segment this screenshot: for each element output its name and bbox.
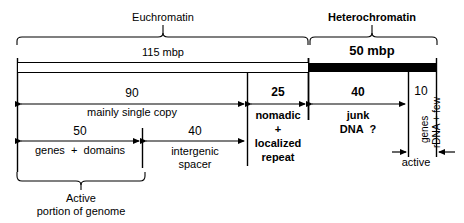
diagram-linework	[0, 0, 464, 223]
brace-heterochromatin	[310, 25, 437, 45]
label-active-portion: Active portion of genome	[37, 192, 126, 218]
value-intergenic-spacer: 40	[188, 126, 201, 137]
brace-euchromatin	[17, 25, 308, 45]
label-active-rdna: active	[402, 157, 431, 168]
label-intergenic-spacer: intergenic spacer	[171, 145, 219, 171]
label-genes-domains: genes + domains	[35, 145, 125, 156]
brace-active-portion	[17, 172, 145, 190]
value-nomadic-repeat: 25	[271, 87, 284, 98]
label-junk-dna: junk DNA ?	[340, 108, 376, 136]
label-rdna-few-genes-line1: rDNA + few	[431, 97, 442, 148]
label-single-copy: mainly single copy	[87, 107, 177, 118]
label-heterochromatin: Heterochromatin	[328, 12, 416, 23]
label-euchromatin: Euchromatin	[132, 12, 194, 23]
bar-heterochromatin	[308, 63, 437, 72]
label-heterochromatin-size: 50 mbp	[349, 45, 395, 56]
value-single-copy: 90	[125, 88, 138, 99]
label-euchromatin-size: 115 mbp	[142, 47, 184, 58]
value-rdna-few-genes: 10	[414, 86, 427, 97]
value-junk-dna: 40	[351, 87, 364, 98]
label-nomadic-repeat: nomadic + localized repeat	[255, 108, 301, 164]
label-rdna-few-genes-line2: genes	[419, 116, 430, 143]
genome-composition-diagram: Euchromatin Heterochromatin 115 mbp 50 m…	[0, 0, 464, 223]
value-genes-domains: 50	[73, 126, 86, 137]
bar-euchromatin	[17, 62, 309, 73]
